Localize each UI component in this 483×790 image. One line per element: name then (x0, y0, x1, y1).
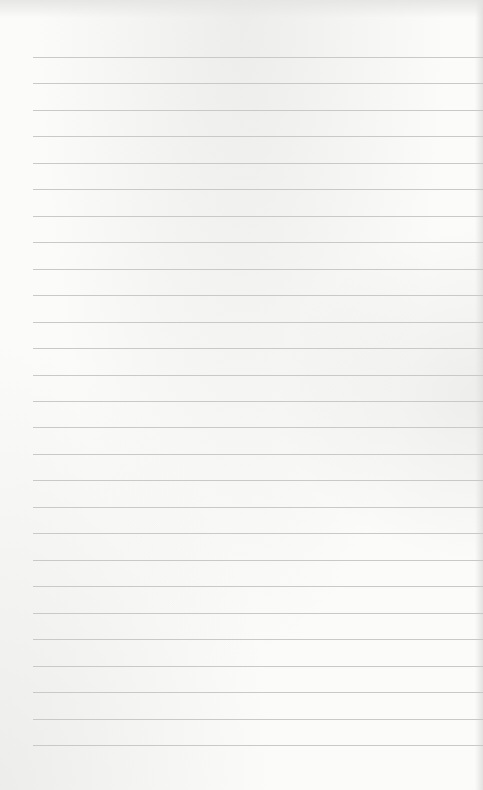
ruled-line (33, 586, 483, 587)
ruled-line (33, 216, 483, 217)
ruled-line (33, 83, 483, 84)
ruled-line (33, 110, 483, 111)
ruled-line (33, 242, 483, 243)
ruled-lines (0, 0, 483, 790)
ruled-line (33, 57, 483, 58)
lined-paper-sheet (0, 0, 483, 790)
ruled-line (33, 375, 483, 376)
ruled-line (33, 163, 483, 164)
ruled-line (33, 692, 483, 693)
ruled-line (33, 189, 483, 190)
ruled-line (33, 745, 483, 746)
ruled-line (33, 427, 483, 428)
ruled-line (33, 666, 483, 667)
ruled-line (33, 719, 483, 720)
ruled-line (33, 480, 483, 481)
ruled-line (33, 560, 483, 561)
ruled-line (33, 295, 483, 296)
ruled-line (33, 507, 483, 508)
ruled-line (33, 639, 483, 640)
ruled-line (33, 269, 483, 270)
ruled-line (33, 322, 483, 323)
ruled-line (33, 136, 483, 137)
ruled-line (33, 533, 483, 534)
ruled-line (33, 613, 483, 614)
ruled-line (33, 348, 483, 349)
ruled-line (33, 401, 483, 402)
ruled-line (33, 454, 483, 455)
